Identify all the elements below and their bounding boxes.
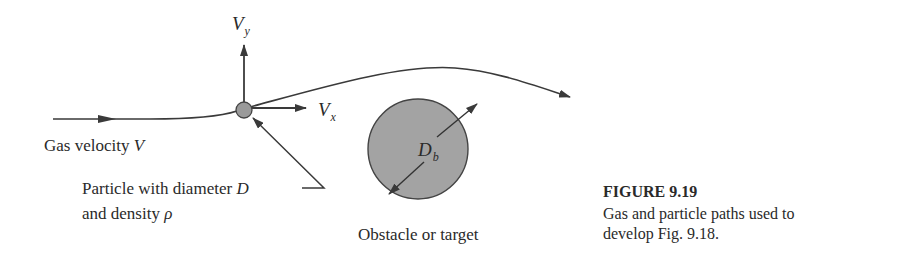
caption-line-1: Gas and particle paths used to	[603, 204, 803, 224]
particle-pointer-line	[253, 118, 324, 188]
gas-velocity-label: Gas velocity V	[44, 137, 144, 154]
obstacle-label: Obstacle or target	[358, 226, 479, 243]
vx-main: V	[318, 99, 330, 120]
figure-number: FIGURE 9.19	[603, 183, 697, 201]
gas-velocity-symbol: V	[134, 136, 144, 155]
gas-flow-arrowhead-icon	[98, 115, 116, 123]
figure-caption: Gas and particle paths used to develop F…	[603, 204, 803, 244]
vx-label: Vx	[318, 100, 336, 119]
db-label: Db	[418, 140, 439, 159]
particle-diameter-text: Particle with diameter	[82, 179, 236, 198]
caption-line-2: develop Fig. 9.18.	[603, 224, 803, 244]
particle-density-text: and density	[82, 204, 164, 223]
vy-label: Vy	[232, 14, 250, 33]
db-main: D	[418, 139, 432, 160]
circle-particle-icon	[236, 102, 252, 118]
vx-subscript: x	[331, 110, 336, 124]
particle-label-line1: Particle with diameter D	[82, 180, 249, 197]
particle-density-symbol: ρ	[164, 204, 172, 223]
particle-diameter-symbol: D	[236, 179, 248, 198]
db-subscript: b	[433, 150, 439, 164]
vy-subscript: y	[245, 24, 250, 38]
gas-velocity-text: Gas velocity	[44, 136, 134, 155]
particle-label-line2: and density ρ	[82, 205, 172, 222]
gas-streamline-incoming	[53, 111, 237, 123]
vy-main: V	[232, 13, 244, 34]
